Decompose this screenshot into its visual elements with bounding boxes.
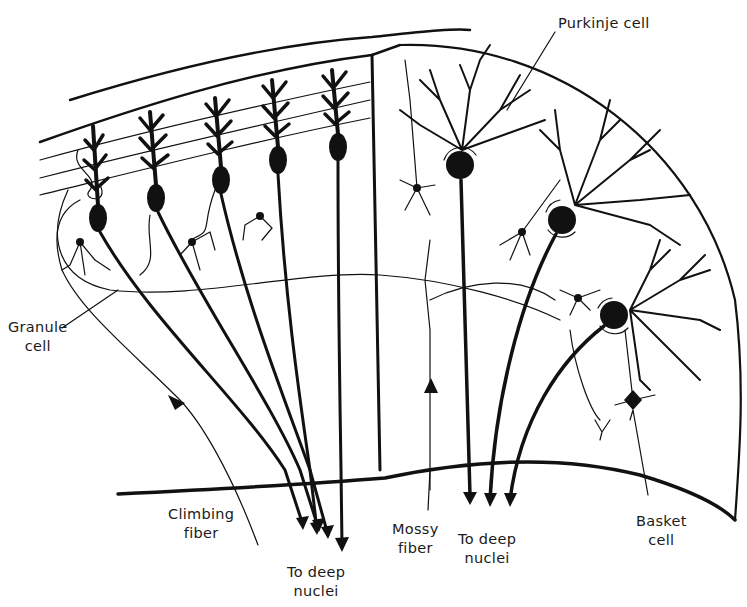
label-granule-cell: Granule cell (8, 318, 68, 356)
label-to-deep-nuclei-left: To deep nuclei (287, 563, 345, 601)
label-basket-cell: Basket cell (636, 512, 687, 550)
left-purkinje-cells (77, 70, 349, 552)
right-purkinje-cells (400, 32, 720, 507)
folium-outline (40, 29, 741, 520)
label-to-deep-nuclei-right: To deep nuclei (458, 530, 516, 568)
label-purkinje-cell: Purkinje cell (558, 14, 650, 33)
cerebellar-cortex-diagram (0, 0, 747, 607)
label-mossy-fiber: Mossy fiber (392, 520, 439, 558)
label-climbing-fiber: Climbing fiber (168, 505, 234, 543)
